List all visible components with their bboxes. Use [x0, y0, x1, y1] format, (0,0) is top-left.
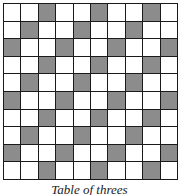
grid-cell: [108, 57, 125, 75]
grid-cell: [74, 39, 91, 57]
grid-cell: [4, 110, 21, 128]
grid-cell: [161, 22, 178, 40]
grid-cell: [56, 110, 73, 128]
grid-cell: [74, 162, 91, 180]
grid-cell: [108, 22, 125, 40]
grid-cell: [74, 145, 91, 163]
grid-cell: [143, 39, 160, 57]
grid-cell-shaded: [143, 57, 160, 75]
grid-cell-shaded: [21, 127, 38, 145]
grid-cell: [4, 57, 21, 75]
grid-cell: [21, 4, 38, 22]
grid-cell-shaded: [143, 4, 160, 22]
grid-cell-shaded: [161, 92, 178, 110]
grid-cell-shaded: [126, 22, 143, 40]
grid-cell: [108, 162, 125, 180]
grid-cell: [91, 127, 108, 145]
grid-cell: [21, 162, 38, 180]
grid-cell: [4, 74, 21, 92]
grid-cell-shaded: [91, 162, 108, 180]
grid-cell-shaded: [74, 74, 91, 92]
grid-cell-shaded: [4, 92, 21, 110]
grid-cell-shaded: [21, 22, 38, 40]
grid-cell: [126, 92, 143, 110]
grid-cell-shaded: [108, 145, 125, 163]
grid-cell: [161, 4, 178, 22]
grid-cell: [56, 22, 73, 40]
grid-cell: [161, 162, 178, 180]
grid-cell: [21, 110, 38, 128]
grid-cell-shaded: [91, 110, 108, 128]
grid-cell: [39, 22, 56, 40]
grid-cell: [74, 4, 91, 22]
grid-cell: [143, 145, 160, 163]
threes-grid: [3, 3, 178, 180]
grid-cell-shaded: [4, 39, 21, 57]
grid-cell: [21, 57, 38, 75]
grid-cell: [4, 22, 21, 40]
grid-cell: [39, 145, 56, 163]
grid-cell: [74, 92, 91, 110]
grid-cell: [91, 39, 108, 57]
grid-cell-shaded: [91, 4, 108, 22]
grid-cell: [108, 110, 125, 128]
grid-cell-shaded: [108, 39, 125, 57]
grid-cell: [126, 162, 143, 180]
grid-cell: [91, 145, 108, 163]
grid-cell: [108, 74, 125, 92]
grid-cell-shaded: [126, 127, 143, 145]
grid-cell: [161, 74, 178, 92]
grid-cell-shaded: [161, 145, 178, 163]
grid-cell-shaded: [39, 162, 56, 180]
grid-cell: [143, 22, 160, 40]
grid-cell: [143, 74, 160, 92]
grid-cell: [143, 127, 160, 145]
grid-cell-shaded: [91, 57, 108, 75]
grid-cell: [91, 74, 108, 92]
grid-cell-shaded: [161, 39, 178, 57]
grid-cell: [126, 4, 143, 22]
grid-cell-shaded: [126, 74, 143, 92]
grid-cell: [143, 92, 160, 110]
grid-cell-shaded: [56, 39, 73, 57]
grid-cell: [74, 57, 91, 75]
grid-cell: [91, 92, 108, 110]
grid-cell-shaded: [56, 145, 73, 163]
grid-cell: [74, 110, 91, 128]
grid-cell: [126, 39, 143, 57]
grid-cell: [21, 145, 38, 163]
grid-cell-shaded: [4, 145, 21, 163]
grid-cell: [56, 74, 73, 92]
grid-cell: [21, 92, 38, 110]
grid-cell: [161, 57, 178, 75]
grid-cell: [4, 127, 21, 145]
grid-cell-shaded: [39, 110, 56, 128]
grid-cell: [39, 92, 56, 110]
grid-cell-shaded: [74, 127, 91, 145]
grid-cell: [56, 162, 73, 180]
grid-cell: [91, 22, 108, 40]
grid-cell: [108, 127, 125, 145]
grid-cell-shaded: [39, 4, 56, 22]
grid-cell: [21, 39, 38, 57]
grid-cell: [56, 57, 73, 75]
grid-cell-shaded: [74, 22, 91, 40]
grid-cell: [161, 127, 178, 145]
grid-cell: [161, 110, 178, 128]
grid-cell: [4, 162, 21, 180]
grid-cell: [126, 110, 143, 128]
grid-cell: [126, 145, 143, 163]
grid-cell-shaded: [143, 110, 160, 128]
grid-cell: [39, 39, 56, 57]
grid-cell: [56, 127, 73, 145]
grid-cell: [4, 4, 21, 22]
grid-cell-shaded: [56, 92, 73, 110]
grid-cell: [39, 127, 56, 145]
grid-cell-shaded: [108, 92, 125, 110]
grid-cell-shaded: [39, 57, 56, 75]
grid-cell: [126, 57, 143, 75]
grid-cell-shaded: [21, 74, 38, 92]
figure-caption: Table of threes: [0, 182, 179, 195]
grid-cell: [39, 74, 56, 92]
grid-cell-shaded: [143, 162, 160, 180]
